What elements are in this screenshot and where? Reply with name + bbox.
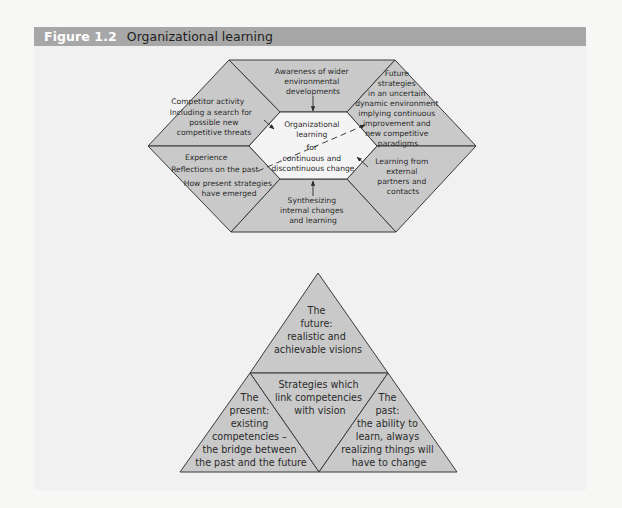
hex-bottom-text: Synthesizing internal changes and learni…	[280, 196, 346, 225]
vision-triangle	[180, 273, 457, 472]
hex-top-text: Awareness of wider environmental develop…	[275, 67, 351, 96]
diagram-canvas: Awareness of wider environmental develop…	[0, 0, 622, 508]
